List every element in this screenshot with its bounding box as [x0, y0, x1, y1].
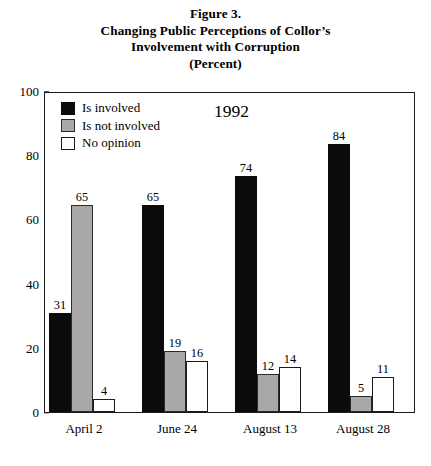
bar-august-28-no-opinion[interactable]: 11: [372, 377, 394, 412]
bar-august-13-is-involved[interactable]: 74: [235, 176, 257, 412]
bar-april-2-is-not-involved[interactable]: 65: [71, 205, 93, 412]
figure-title-line-2: Changing Public Perceptions of Collor’s: [0, 23, 431, 40]
legend-label-is-not-involved: Is not involved: [82, 119, 160, 133]
bar-value-august-28-is-not-involved: 5: [358, 382, 364, 395]
x-tick-label-april-2: April 2: [65, 421, 102, 437]
bar-value-june-24-no-opinion: 16: [191, 347, 203, 360]
bar-value-april-2-is-not-involved: 65: [76, 191, 88, 204]
y-tick-label-80: 80: [26, 148, 39, 164]
y-tick-label-40: 40: [26, 277, 39, 293]
y-axis: 100 80 60 40 20 0: [0, 92, 39, 413]
bar-value-august-13-is-not-involved: 12: [262, 360, 274, 373]
legend-item-is-involved[interactable]: Is involved: [61, 101, 160, 115]
legend-item-no-opinion[interactable]: No opinion: [61, 136, 160, 150]
bar-august-13-is-not-involved[interactable]: 12: [257, 374, 279, 412]
bar-august-28-is-not-involved[interactable]: 5: [350, 396, 372, 412]
bar-value-august-13-is-involved: 74: [240, 162, 252, 175]
bar-august-13-no-opinion[interactable]: 14: [279, 367, 301, 412]
bar-june-24-is-not-involved[interactable]: 19: [164, 351, 186, 412]
x-tick-label-august-28: August 28: [336, 421, 390, 437]
bar-group-august-13: 74 12 14: [235, 93, 307, 412]
bar-value-august-28-is-involved: 84: [333, 130, 345, 143]
figure-title-line-4: (Percent): [0, 56, 431, 73]
figure-title-line-3: Involvement with Corruption: [0, 39, 431, 56]
bar-april-2-is-involved[interactable]: 31: [49, 313, 71, 412]
bar-value-august-13-no-opinion: 14: [284, 353, 296, 366]
bar-value-april-2-is-involved: 31: [54, 299, 66, 312]
year-annotation: 1992: [214, 101, 249, 121]
figure-title-line-1: Figure 3.: [0, 6, 431, 23]
legend-label-no-opinion: No opinion: [82, 136, 141, 150]
white-square-icon: [61, 137, 75, 150]
x-tick-label-june-24: June 24: [157, 421, 197, 437]
black-square-icon: [61, 102, 75, 115]
y-tick-label-100: 100: [20, 84, 40, 100]
y-tick-label-0: 0: [33, 405, 40, 421]
bar-group-august-28: 84 5 11: [328, 93, 400, 412]
bar-august-28-is-involved[interactable]: 84: [328, 144, 350, 412]
y-tick-label-60: 60: [26, 212, 39, 228]
legend: Is involved Is not involved No opinion: [61, 101, 160, 150]
bar-value-april-2-no-opinion: 4: [101, 385, 107, 398]
bar-value-june-24-is-involved: 65: [147, 191, 159, 204]
x-tick-label-august-13: August 13: [243, 421, 297, 437]
y-tick-label-20: 20: [26, 341, 39, 357]
bar-june-24-no-opinion[interactable]: 16: [186, 361, 208, 412]
gray-square-icon: [61, 119, 75, 132]
figure-title: Figure 3. Changing Public Perceptions of…: [0, 6, 431, 72]
bar-april-2-no-opinion[interactable]: 4: [93, 399, 115, 412]
bar-value-august-28-no-opinion: 11: [377, 363, 389, 376]
legend-label-is-involved: Is involved: [82, 101, 140, 115]
bar-june-24-is-involved[interactable]: 65: [142, 205, 164, 412]
legend-item-is-not-involved[interactable]: Is not involved: [61, 119, 160, 133]
x-axis: April 2 June 24 August 13 August 28: [44, 421, 415, 445]
bar-value-june-24-is-not-involved: 19: [169, 337, 181, 350]
